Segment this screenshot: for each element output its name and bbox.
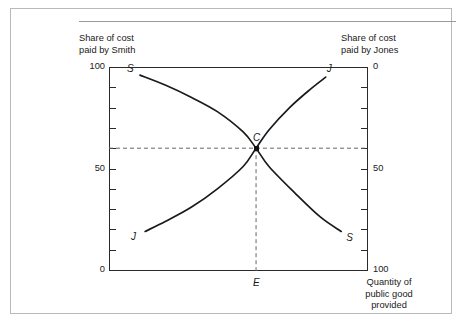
curve-label-s-upper: S — [127, 63, 134, 74]
left-tick-label-50: 50 — [95, 163, 105, 173]
right-tick-label-0: 0 — [373, 61, 378, 71]
figure-panel: Share of cost paid by Smith Share of cos… — [10, 8, 452, 314]
equilibrium-marker — [254, 146, 259, 151]
left-tick-label-100: 100 — [89, 61, 105, 71]
right-tick-label-100: 100 — [373, 264, 389, 274]
curve-label-j-upper: J — [327, 63, 332, 74]
smith-curve — [140, 75, 341, 231]
curves-svg — [109, 67, 368, 271]
curve-label-j-lower: J — [131, 231, 136, 242]
x-axis-caption: Quantity of public good provided — [341, 277, 437, 312]
plot-area: 100 50 0 0 50 100 S S J J C — [109, 67, 368, 271]
jones-curve — [145, 77, 326, 231]
equilibrium-label-e: E — [253, 277, 260, 288]
right-tick-label-50: 50 — [373, 163, 383, 173]
right-axis-caption: Share of cost paid by Jones — [341, 33, 398, 56]
left-axis-caption: Share of cost paid by Smith — [79, 33, 135, 56]
equilibrium-label-c: C — [253, 132, 260, 143]
left-tick-label-0: 0 — [100, 264, 105, 274]
header-rule — [79, 21, 456, 22]
curve-label-s-lower: S — [346, 232, 353, 243]
